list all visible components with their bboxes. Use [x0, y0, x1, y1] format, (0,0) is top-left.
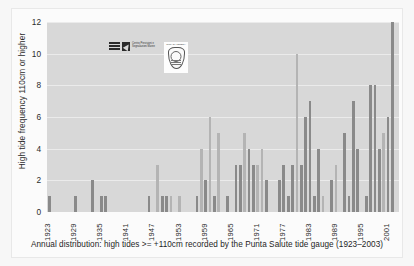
bar-1994	[356, 149, 359, 212]
x-tick-label: 1983	[304, 223, 313, 241]
x-tick-label: 1977	[278, 223, 287, 241]
bar-1998	[374, 85, 377, 212]
logo-primary-caption: Centro Previsioni e Segnalazioni Maree	[132, 42, 158, 48]
bar-1936	[104, 196, 107, 212]
x-tick-label: 1989	[330, 223, 339, 241]
bar-1971	[256, 165, 259, 213]
bar-2002	[391, 22, 394, 212]
y-axis-tick-labels: 024681012	[0, 22, 45, 212]
y-tick-label: 2	[36, 175, 41, 185]
x-tick-label: 1935	[95, 223, 104, 241]
bar-1982	[304, 117, 307, 212]
y-tick-label: 0	[36, 207, 41, 217]
bar-1992	[348, 196, 351, 212]
city-of-venice-logo: CITTA DI VENEZIA	[164, 42, 188, 73]
bar-1961	[213, 196, 216, 212]
bar-1967	[239, 165, 242, 213]
tide-center-logo: Centro Previsioni e Segnalazioni Maree	[109, 42, 158, 51]
y-tick-label: 6	[36, 112, 41, 122]
bar-1989	[335, 165, 338, 213]
x-tick-label: 1959	[200, 223, 209, 241]
bar-1933	[91, 180, 94, 212]
bar-1949	[161, 196, 164, 212]
bar-1980	[296, 54, 299, 212]
bar-1960	[209, 117, 212, 212]
logo-arrow-icon	[122, 42, 130, 51]
bar-1951	[170, 196, 173, 212]
x-tick-label: 1965	[226, 223, 235, 241]
y-tick-label: 8	[36, 80, 41, 90]
logo-group: Centro Previsioni e Segnalazioni Maree C…	[109, 42, 188, 73]
bar-1983	[309, 101, 312, 212]
logo-stripes-icon	[109, 42, 120, 51]
bar-1962	[217, 133, 220, 212]
chart-figure: High tide frequency 110cm or higher 0246…	[0, 0, 414, 266]
bar-1977	[282, 165, 285, 213]
bar-1968	[243, 133, 246, 212]
x-tick-label: 1929	[69, 223, 78, 241]
bar-1950	[165, 196, 168, 212]
bar-1991	[343, 133, 346, 212]
bar-1972	[261, 149, 264, 212]
x-tick-label: 1947	[147, 223, 156, 241]
bar-1979	[291, 165, 294, 213]
bar-1999	[378, 149, 381, 212]
bar-1958	[200, 149, 203, 212]
x-tick-label: 1971	[252, 223, 261, 241]
bar-1948	[156, 165, 159, 213]
bar-1973	[265, 180, 268, 212]
x-tick-label: 1941	[121, 223, 130, 241]
bar-1988	[330, 180, 333, 212]
crest-icon	[168, 47, 185, 69]
y-tick-label: 4	[36, 144, 41, 154]
bar-1959	[204, 180, 207, 212]
plot-area: Centro Previsioni e Segnalazioni Maree C…	[47, 22, 399, 212]
x-axis-tick-labels: 1923192919351941194719531959196519711977…	[47, 213, 399, 241]
bar-1969	[248, 149, 251, 212]
bar-1964	[226, 196, 229, 212]
bar-1996	[365, 196, 368, 212]
bar-1929	[74, 196, 77, 212]
y-tick-label: 10	[32, 49, 41, 59]
bar-1953	[178, 196, 181, 212]
bar-1981	[300, 165, 303, 213]
bar-1985	[317, 149, 320, 212]
bar-1993	[352, 101, 355, 212]
x-tick-label: 2001	[382, 223, 391, 241]
bar-1957	[196, 196, 199, 212]
bar-1946	[148, 196, 151, 212]
x-tick-label: 1995	[356, 223, 365, 241]
bar-series	[47, 22, 399, 212]
x-tick-label: 1953	[174, 223, 183, 241]
logo-secondary-caption: CITTA DI VENEZIA	[166, 43, 186, 46]
y-tick-label: 12	[32, 17, 41, 27]
bar-1984	[313, 196, 316, 212]
figure-caption: Annual distribution: high tides >= +110c…	[11, 240, 403, 249]
bar-2001	[387, 117, 390, 212]
bar-2000	[382, 133, 385, 212]
bar-1978	[287, 196, 290, 212]
bar-1997	[369, 85, 372, 212]
bar-1976	[278, 180, 281, 212]
x-tick-label: 1923	[43, 223, 52, 241]
bar-1986	[322, 196, 325, 212]
bar-1935	[100, 196, 103, 212]
bar-1966	[235, 165, 238, 213]
bar-1923	[48, 196, 51, 212]
bar-1970	[252, 165, 255, 213]
